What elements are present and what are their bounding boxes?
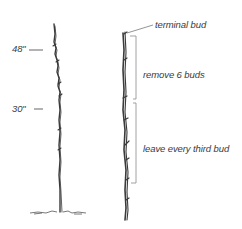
diagram-drawing (0, 0, 242, 229)
ground-line (30, 211, 86, 214)
bracket-upper (130, 36, 136, 99)
height-label-48: 48" (12, 44, 26, 54)
height-ticks (29, 50, 43, 109)
terminal-bud-leader-line (127, 25, 153, 33)
leave-buds-label: leave every third bud (143, 144, 229, 154)
left-stem (53, 24, 62, 212)
pruning-diagram: 48" 30" terminal bud remove 6 buds leave… (0, 0, 242, 229)
height-label-30: 30" (12, 104, 26, 114)
right-stem (123, 32, 129, 220)
bracket-lower (131, 103, 136, 183)
section-bracket (130, 36, 136, 183)
terminal-bud-label: terminal bud (155, 20, 206, 30)
remove-buds-label: remove 6 buds (143, 70, 205, 80)
